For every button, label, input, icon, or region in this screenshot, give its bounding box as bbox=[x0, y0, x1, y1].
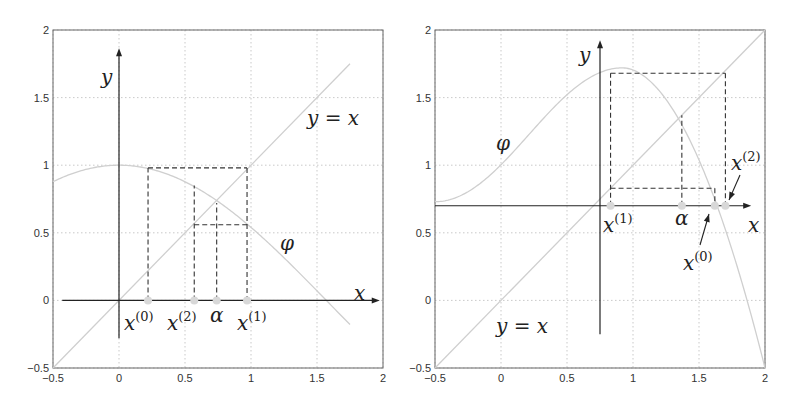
x1-label: x(1) bbox=[237, 309, 267, 335]
x-arrowhead-icon bbox=[743, 203, 751, 209]
x0-label: x(0) bbox=[124, 309, 154, 335]
phi-label: φ bbox=[496, 131, 510, 155]
y-tick-label: 0 bbox=[425, 294, 431, 306]
x-tick-label: 0.5 bbox=[559, 372, 574, 384]
iterate-marker bbox=[190, 296, 198, 304]
x-axis-label: x bbox=[354, 281, 365, 305]
y-tick-label: −0.5 bbox=[409, 362, 431, 374]
plot-panel-1: −0.500.511.52−0.500.511.52yxy = xφx(0)x(… bbox=[27, 24, 386, 384]
x-tick-label: 0 bbox=[116, 372, 122, 384]
x0-label: x(0) bbox=[683, 249, 713, 275]
y-arrowhead-icon bbox=[116, 48, 122, 56]
x-tick-label: 1.5 bbox=[309, 372, 324, 384]
y-tick-label: 0.5 bbox=[416, 227, 431, 239]
alpha-label: α bbox=[210, 303, 224, 327]
y-tick-label: 1 bbox=[43, 159, 49, 171]
x-tick-label: 1.5 bbox=[691, 372, 706, 384]
y-tick-label: 2 bbox=[43, 24, 49, 36]
plot-panel-2: −0.500.511.52−0.500.511.52yxy = xφx(1)αx… bbox=[409, 24, 768, 384]
x2-label: x(2) bbox=[731, 149, 761, 175]
y-tick-label: 1 bbox=[425, 159, 431, 171]
x-tick-label: 0.5 bbox=[177, 372, 192, 384]
x-arrowhead-icon bbox=[372, 297, 380, 303]
iterate-marker bbox=[721, 202, 729, 210]
x-tick-label: 1 bbox=[248, 372, 254, 384]
y-axis-label: y bbox=[578, 43, 591, 67]
iterate-marker bbox=[243, 296, 251, 304]
identity-label: y = x bbox=[495, 314, 548, 338]
x-tick-label: 0 bbox=[498, 372, 504, 384]
iterate-marker bbox=[711, 202, 719, 210]
y-arrowhead-icon bbox=[597, 40, 603, 48]
y-tick-label: 1.5 bbox=[34, 92, 49, 104]
alpha-label: α bbox=[675, 206, 689, 230]
y-tick-label: 0 bbox=[43, 294, 49, 306]
y-tick-label: 0.5 bbox=[34, 227, 49, 239]
iterate-marker bbox=[607, 202, 615, 210]
identity-label: y = x bbox=[306, 106, 359, 130]
identity-line bbox=[53, 64, 350, 368]
phi-label: φ bbox=[280, 231, 294, 255]
x-tick-label: 2 bbox=[762, 372, 768, 384]
y-tick-label: 2 bbox=[425, 24, 431, 36]
iterate-marker bbox=[144, 296, 152, 304]
figure: −0.500.511.52−0.500.511.52yxy = xφx(0)x(… bbox=[0, 0, 796, 404]
x2-label: x(2) bbox=[167, 309, 197, 335]
y-tick-label: 1.5 bbox=[416, 92, 431, 104]
x-axis-label: x bbox=[748, 213, 759, 237]
x-tick-label: 1 bbox=[630, 372, 636, 384]
x-tick-label: 2 bbox=[380, 372, 386, 384]
y-axis-label: y bbox=[100, 65, 113, 89]
arrowhead-icon bbox=[729, 191, 735, 200]
arrowhead-icon bbox=[704, 214, 710, 223]
y-tick-label: −0.5 bbox=[27, 362, 49, 374]
